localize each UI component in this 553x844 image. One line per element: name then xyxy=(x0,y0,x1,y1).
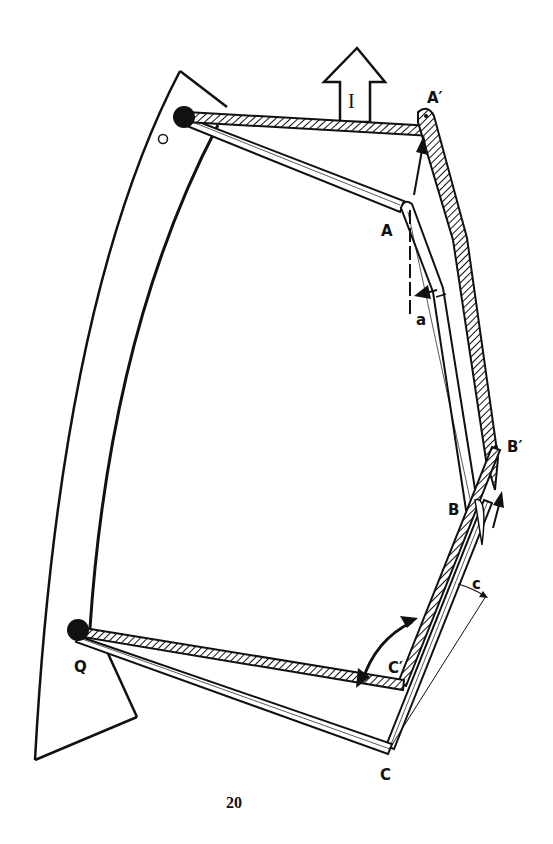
page-number: 20 xyxy=(226,794,242,811)
label-b-prime: B′ xyxy=(507,438,522,456)
label-a: A xyxy=(381,222,393,240)
label-q: Q xyxy=(74,658,87,676)
linkage-diagram: I xyxy=(0,0,553,844)
direction-label: I xyxy=(348,90,355,112)
arrow-b-to-b-prime-icon xyxy=(493,505,499,528)
o-marker xyxy=(159,135,168,144)
pivot-q xyxy=(67,619,89,641)
arrow-a-to-a-prime-icon xyxy=(414,150,422,195)
label-c-prime: C′ xyxy=(388,659,403,677)
label-b: B xyxy=(448,501,459,519)
joint-a-prime xyxy=(424,114,428,118)
link-b-prime-c-prime xyxy=(398,447,500,686)
label-a-prime: A′ xyxy=(427,89,443,107)
label-a-lower: a xyxy=(416,311,426,329)
label-c-lower: c xyxy=(472,575,481,593)
pivot-o xyxy=(173,106,195,128)
joint-b-prime xyxy=(494,445,498,449)
label-c: C xyxy=(380,766,391,784)
link-b-c-initial xyxy=(386,500,492,749)
diagram-page: I xyxy=(0,0,553,844)
direction-arrow-icon: I xyxy=(324,48,385,122)
